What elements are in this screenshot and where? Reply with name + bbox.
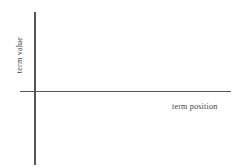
x-axis-label: term position (172, 103, 217, 111)
y-axis-label-text: term value (16, 15, 24, 95)
x-axis-line (20, 91, 231, 93)
axes-diagram: term value term position (0, 0, 245, 168)
y-axis-line (34, 12, 36, 165)
